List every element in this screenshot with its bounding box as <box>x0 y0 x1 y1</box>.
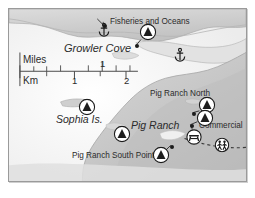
anchor-icon <box>97 23 111 42</box>
scale-tick-miles-1: 1 <box>100 58 105 69</box>
dot-commercial-site <box>190 124 194 128</box>
map-label-pig-ranch-south-point: Pig Ranch South Point <box>72 152 154 160</box>
scale-tick-km-1: 1 <box>72 75 77 86</box>
map-panel[interactable]: Fisheries and Oceans Growler Cove Pig Ra… <box>8 8 247 182</box>
campground-triangle-icon[interactable] <box>153 147 170 168</box>
scale-label-km: Km <box>23 75 38 86</box>
dot-south-point-site <box>170 145 174 149</box>
dot-fisheries-site <box>135 44 139 48</box>
picnic-table-icon[interactable] <box>186 129 202 149</box>
campground-triangle-icon[interactable] <box>140 24 157 45</box>
scale-tick-km-2: 2 <box>124 75 129 86</box>
campground-triangle-icon[interactable] <box>197 110 214 131</box>
map-label-growler-cove: Growler Cove <box>64 43 131 54</box>
campground-triangle-icon[interactable] <box>79 99 96 120</box>
campground-triangle-icon[interactable] <box>114 126 131 147</box>
dot-pig-ranch-north-site <box>192 112 196 116</box>
hikers-icon[interactable] <box>215 138 230 157</box>
anchor-icon <box>173 48 187 67</box>
scale-label-miles: Miles <box>23 54 46 65</box>
map-label-pig-ranch: Pig Ranch <box>131 120 179 131</box>
